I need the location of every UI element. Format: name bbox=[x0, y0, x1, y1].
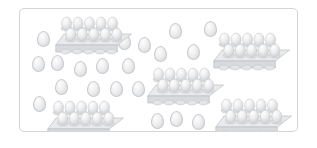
carton-egg bbox=[89, 28, 99, 41]
loose-egg bbox=[37, 31, 50, 47]
carton-egg bbox=[249, 110, 259, 123]
loose-egg bbox=[169, 23, 182, 39]
carton-top-right bbox=[215, 28, 289, 76]
loose-egg bbox=[110, 81, 123, 97]
loose-egg bbox=[187, 44, 200, 60]
carton-egg bbox=[258, 44, 268, 57]
carton-egg bbox=[169, 79, 179, 92]
carton-egg bbox=[58, 112, 68, 125]
loose-egg bbox=[154, 46, 167, 62]
carton-egg bbox=[192, 79, 202, 92]
loose-egg bbox=[132, 81, 145, 97]
loose-egg bbox=[55, 79, 68, 95]
loose-egg bbox=[32, 56, 45, 72]
carton-bottom-right bbox=[217, 94, 291, 132]
carton-egg bbox=[181, 79, 191, 92]
carton-egg bbox=[235, 44, 245, 57]
carton-egg bbox=[270, 44, 280, 57]
carton-egg bbox=[104, 112, 114, 125]
loose-egg bbox=[122, 58, 135, 74]
loose-egg bbox=[33, 96, 46, 112]
carton-egg bbox=[112, 28, 122, 41]
carton-egg bbox=[226, 110, 236, 123]
carton-egg bbox=[66, 28, 76, 41]
carton-egg bbox=[77, 28, 87, 41]
loose-egg bbox=[74, 61, 87, 77]
carton-egg bbox=[224, 44, 234, 57]
carton-egg bbox=[247, 44, 257, 57]
carton-egg bbox=[204, 79, 214, 92]
loose-egg bbox=[138, 37, 151, 53]
carton-egg bbox=[272, 110, 282, 123]
carton-egg bbox=[100, 28, 110, 41]
carton-egg bbox=[69, 112, 79, 125]
carton-egg bbox=[158, 79, 168, 92]
loose-egg bbox=[170, 111, 183, 127]
carton-egg bbox=[81, 112, 91, 125]
illustration-frame bbox=[19, 8, 298, 132]
carton-middle bbox=[149, 63, 223, 111]
carton-top-left bbox=[57, 12, 131, 60]
loose-egg bbox=[87, 81, 100, 97]
loose-egg bbox=[96, 58, 109, 74]
loose-egg bbox=[192, 114, 205, 130]
carton-egg bbox=[237, 110, 247, 123]
carton-bottom-left bbox=[49, 96, 123, 132]
carton-egg bbox=[260, 110, 270, 123]
carton-egg bbox=[92, 112, 102, 125]
loose-egg bbox=[151, 113, 164, 129]
eggs-illustration bbox=[0, 0, 317, 148]
